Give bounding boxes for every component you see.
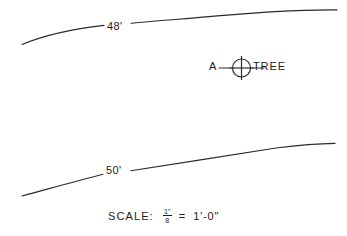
scale-fraction: 1" 8 (163, 208, 172, 224)
contour-50-left-segment (22, 174, 103, 196)
scale-note-value: 1'-0" (193, 210, 219, 222)
contour-48-right-segment (131, 10, 337, 23)
scale-note-word: SCALE: (108, 210, 154, 222)
tree-name-label: TREE (253, 61, 286, 72)
site-plan-drawing-sheet: 48' 50' A TREE SCALE: 1" 8 = 1'-0" (0, 0, 347, 236)
contour-label-48: 48' (107, 21, 123, 32)
contour-label-50: 50' (106, 165, 122, 176)
contour-48-left-segment (22, 25, 104, 44)
scale-equals-sign: = (179, 210, 187, 222)
contour-50-right-segment (131, 143, 335, 170)
scale-note: SCALE: 1" 8 = 1'-0" (108, 208, 219, 224)
scale-fraction-numerator: 1" (163, 208, 171, 216)
scale-fraction-denominator: 8 (164, 216, 170, 224)
tree-designation-label: A (209, 61, 217, 72)
plan-linework (0, 0, 347, 236)
